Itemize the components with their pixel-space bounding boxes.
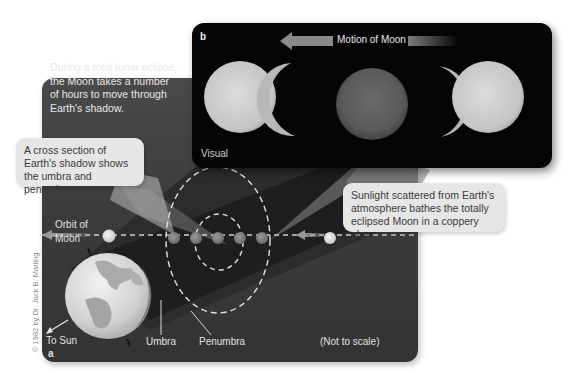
cross-section-callout: A cross section of Earth's shadow shows … <box>16 138 144 186</box>
motion-label: Motion of Moon <box>337 34 406 45</box>
umbra-label: Umbra <box>146 336 176 347</box>
scale-note: (Not to scale) <box>320 336 379 347</box>
motion-arrow-head <box>280 32 292 50</box>
moon-eclipse-1 <box>256 232 268 244</box>
intro-line: the Moon takes a number <box>50 75 177 89</box>
moon-eclipse-4 <box>190 232 202 244</box>
penumbra-leader <box>191 311 211 335</box>
orbit-label: Orbit of Moon <box>55 218 88 246</box>
panel-b-letter: b <box>200 31 206 42</box>
orbit-arrow-head <box>42 230 52 240</box>
moon-full-post <box>103 230 116 243</box>
intro-line: Earth's shadow. <box>50 102 177 116</box>
earth <box>65 253 151 339</box>
intro-line: of hours to move through <box>50 88 177 102</box>
moon-motion-arrow-shaft <box>304 233 326 237</box>
to-sun-label: To Sun <box>46 335 77 346</box>
copyright-text: © 1982 by Dr. Jack B. Marling <box>31 253 40 352</box>
moon-eclipse-5 <box>168 232 180 244</box>
visual-label: Visual <box>201 148 228 159</box>
moon-eclipse-3 <box>212 232 224 244</box>
intro-line: During a total lunar eclipse, <box>50 61 177 75</box>
moon-eclipse-2 <box>234 232 246 244</box>
motion-arrow-tail <box>408 36 456 46</box>
motion-arrow-shaft <box>291 36 333 46</box>
moon-full-pre <box>324 232 336 244</box>
panel-a-letter: a <box>48 348 54 359</box>
to-sun-arrow-line <box>50 320 68 331</box>
sunlight-callout: Sunlight scattered from Earth's atmosphe… <box>343 183 505 232</box>
penumbra-label: Penumbra <box>199 336 245 347</box>
earth-axis-south <box>127 339 130 346</box>
intro-text: During a total lunar eclipse, the Moon t… <box>50 61 177 115</box>
photo-moon-eclipsed <box>336 68 408 140</box>
panel-b-photo: b Motion of Moon Visual <box>192 23 552 168</box>
photo-moon-right-full <box>452 61 524 133</box>
to-sun-arrow-head <box>46 327 53 334</box>
